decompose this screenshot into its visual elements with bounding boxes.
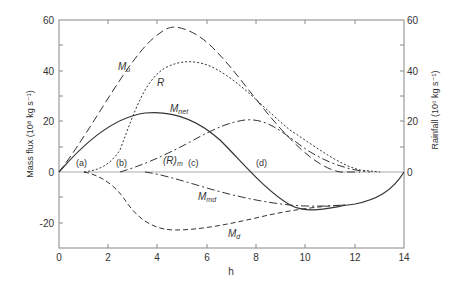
svg-text:0: 0	[48, 167, 54, 178]
mass-flux-chart: 0 2 4 6 8 10 12 14 h 60 40 20 0 -20 Mass…	[0, 0, 454, 287]
x-axis-label: h	[228, 266, 234, 277]
svg-text:20: 20	[43, 116, 55, 127]
svg-text:-20: -20	[40, 218, 55, 229]
y-right-axis-label: Rainfall (10⁶ kg s⁻¹)	[430, 70, 440, 149]
svg-text:14: 14	[398, 252, 410, 263]
svg-text:0: 0	[56, 252, 62, 263]
svg-text:60: 60	[407, 15, 419, 26]
curve-rm	[120, 120, 370, 172]
phase-a: (a)	[76, 158, 87, 168]
x-tick-labels: 0 2 4 6 8 10 12 14	[56, 252, 410, 263]
phase-d: (d)	[256, 158, 267, 168]
label-rm: (R)m	[163, 155, 183, 167]
y-right-tick-labels: 60 40 20 0	[407, 15, 419, 178]
svg-text:12: 12	[349, 252, 361, 263]
label-mu: Mu	[118, 61, 130, 73]
svg-text:60: 60	[43, 15, 55, 26]
y-left-axis-label: Mass flux (10⁸ kg s⁻¹)	[25, 90, 35, 177]
svg-text:20: 20	[407, 116, 419, 127]
svg-text:40: 40	[43, 66, 55, 77]
svg-text:40: 40	[407, 66, 419, 77]
phase-b: (b)	[116, 158, 127, 168]
label-md: Md	[228, 228, 241, 240]
phase-c: (c)	[188, 158, 199, 168]
label-r: R	[157, 77, 164, 88]
x-ticks	[108, 20, 355, 248]
plot-frame	[59, 20, 404, 248]
svg-text:2: 2	[105, 252, 111, 263]
svg-text:10: 10	[299, 252, 311, 263]
svg-text:4: 4	[154, 252, 160, 263]
curve-mu	[59, 27, 360, 172]
svg-text:6: 6	[204, 252, 210, 263]
label-mnet: Mnet	[170, 103, 189, 115]
curve-labels: Mu R Mnet (R)m Mmd Md	[118, 61, 241, 240]
curve-mmd	[145, 172, 345, 206]
svg-text:0: 0	[407, 167, 413, 178]
y-left-tick-labels: 60 40 20 0 -20	[40, 15, 55, 229]
svg-text:8: 8	[253, 252, 259, 263]
label-mmd: Mmd	[198, 191, 217, 203]
y-ticks	[59, 45, 404, 223]
